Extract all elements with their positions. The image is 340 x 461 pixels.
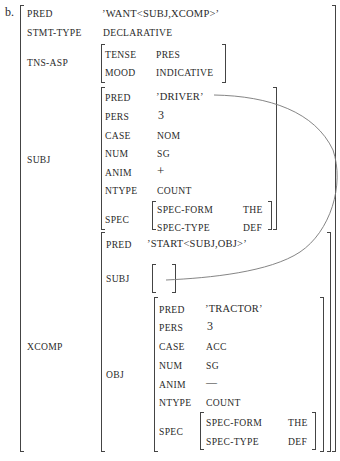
value-subj-ntype: COUNT [157, 185, 192, 197]
attr-obj-spec-form: SPEC-FORM [206, 417, 262, 429]
subj-bracket-right [273, 87, 277, 230]
obj-bracket-right [320, 297, 324, 452]
attr-obj-num: NUM [159, 360, 182, 372]
obj-bracket-left [154, 297, 158, 452]
value-stmt-type: DECLARATIVE [103, 27, 172, 39]
attr-subj: SUBJ [27, 154, 51, 166]
xcomp-subj-bracket-left [152, 264, 156, 293]
obj-spec-bracket-right [312, 412, 316, 450]
attr-subj-pers: PERS [105, 111, 129, 123]
xcomp-subj-bracket-right [172, 264, 176, 293]
attr-obj: OBJ [106, 369, 124, 381]
value-obj-spec-type: DEF [288, 436, 307, 448]
value-obj-case: ACC [206, 341, 227, 353]
attr-pred: PRED [27, 8, 53, 20]
attr-tense: TENSE [105, 49, 136, 61]
attr-subj-spec: SPEC [105, 214, 129, 226]
attr-subj-pred: PRED [105, 92, 131, 104]
value-pred: ’WANT<SUBJ,XCOMP>’ [102, 8, 219, 20]
value-obj-num: SG [206, 360, 219, 372]
attr-xcomp: XCOMP [27, 341, 63, 353]
obj-spec-bracket-left [200, 412, 204, 450]
value-subj-anim: + [157, 165, 165, 177]
subj-spec-bracket-left [152, 201, 156, 230]
attr-subj-case: CASE [105, 130, 131, 142]
value-subj-pred: ’DRIVER’ [156, 91, 204, 103]
value-obj-ntype: COUNT [206, 397, 241, 409]
value-obj-anim: — [206, 376, 217, 388]
attr-xcomp-subj: SUBJ [106, 273, 130, 285]
value-mood: INDICATIVE [156, 67, 213, 79]
value-xcomp-pred: ’START<SUBJ,OBJ>’ [147, 238, 247, 250]
value-obj-pers: 3 [207, 320, 213, 332]
attr-obj-spec: SPEC [159, 426, 183, 438]
value-subj-spec-form: THE [243, 204, 263, 216]
attr-subj-num: NUM [105, 148, 128, 160]
subj-spec-bracket-right [268, 201, 272, 230]
outer-bracket-right [332, 5, 336, 452]
attr-stmt-type: STMT-TYPE [27, 27, 82, 39]
tns-asp-bracket-right [222, 44, 226, 83]
attr-obj-ntype: NTYPE [159, 397, 191, 409]
attr-obj-spec-type: SPEC-TYPE [206, 436, 259, 448]
attr-xcomp-pred: PRED [106, 239, 132, 251]
xcomp-bracket-right [327, 232, 331, 452]
example-label: b. [5, 5, 14, 20]
attr-obj-anim: ANIM [159, 379, 186, 391]
attr-tns-asp: TNS-ASP [27, 57, 68, 69]
attr-subj-ntype: NTYPE [105, 185, 137, 197]
attr-obj-pers: PERS [159, 322, 183, 334]
value-subj-pers: 3 [158, 109, 164, 121]
value-tense: PRES [156, 49, 180, 61]
attr-subj-spec-form: SPEC-FORM [157, 204, 213, 216]
value-obj-spec-form: THE [288, 417, 308, 429]
attr-subj-anim: ANIM [105, 167, 132, 179]
xcomp-bracket-left [101, 232, 105, 452]
outer-bracket-left [20, 5, 24, 452]
value-subj-num: SG [157, 148, 170, 160]
attr-obj-pred: PRED [159, 304, 185, 316]
value-subj-case: NOM [157, 130, 180, 142]
value-obj-pred: ’TRACTOR’ [205, 303, 263, 315]
attr-mood: MOOD [105, 67, 136, 79]
value-subj-spec-type: DEF [243, 222, 262, 234]
attr-obj-case: CASE [159, 341, 185, 353]
attr-subj-spec-type: SPEC-TYPE [157, 222, 210, 234]
